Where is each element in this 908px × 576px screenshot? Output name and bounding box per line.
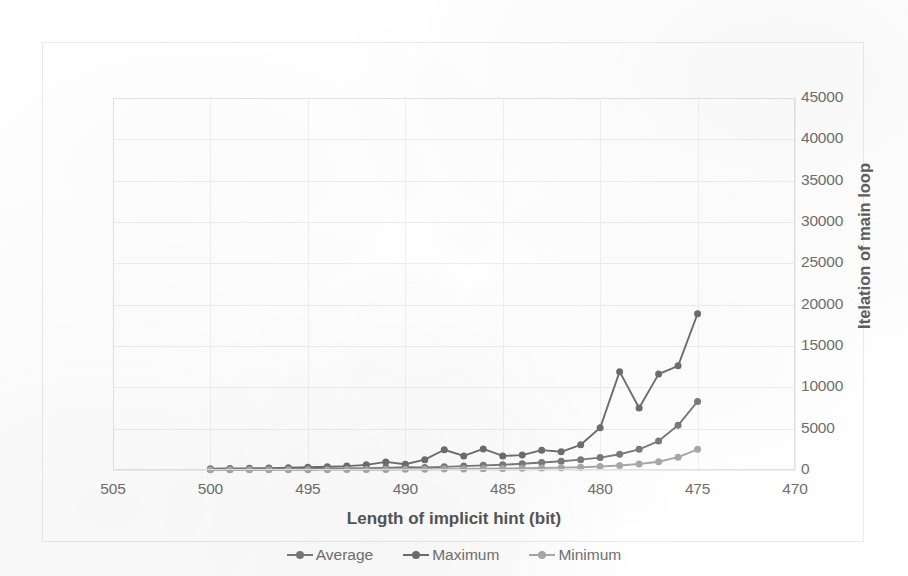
data-point-marker — [675, 362, 682, 369]
data-point-marker — [226, 466, 233, 473]
chart-frame: 0500010000150002000025000300003500040000… — [42, 42, 864, 542]
data-point-marker — [285, 466, 292, 473]
x-axis-title: Length of implicit hint (bit) — [43, 509, 865, 529]
data-point-marker — [460, 452, 467, 459]
y-axis-tick-label: 40000 — [801, 129, 871, 147]
data-point-marker — [577, 456, 584, 463]
data-point-marker — [597, 454, 604, 461]
data-point-marker — [538, 447, 545, 454]
data-point-marker — [304, 466, 311, 473]
data-point-marker — [558, 458, 565, 465]
data-point-marker — [655, 438, 662, 445]
data-point-marker — [207, 466, 214, 473]
legend-marker-icon — [403, 549, 429, 561]
x-axis-tick-label: 490 — [375, 480, 435, 498]
y-axis-tick-label: 10000 — [801, 377, 871, 395]
data-point-marker — [441, 446, 448, 453]
data-point-marker — [577, 464, 584, 471]
chart-container: 0500010000150002000025000300003500040000… — [0, 0, 908, 576]
data-point-marker — [499, 452, 506, 459]
data-point-marker — [499, 465, 506, 472]
legend-marker-icon — [287, 549, 313, 561]
data-point-marker — [636, 446, 643, 453]
data-point-marker — [577, 441, 584, 448]
data-point-marker — [480, 445, 487, 452]
data-point-marker — [246, 466, 253, 473]
x-axis-tick-label: 475 — [668, 480, 728, 498]
data-point-marker — [382, 458, 389, 465]
data-point-marker — [597, 463, 604, 470]
data-point-marker — [402, 466, 409, 473]
data-point-marker — [558, 464, 565, 471]
data-point-marker — [382, 466, 389, 473]
series-minimum — [207, 446, 701, 474]
data-point-marker — [694, 398, 701, 405]
data-point-marker — [265, 466, 272, 473]
data-point-marker — [460, 465, 467, 472]
y-axis-tick-label: 45000 — [801, 88, 871, 106]
data-point-marker — [675, 454, 682, 461]
legend-item-label: Average — [316, 546, 373, 564]
data-point-marker — [441, 466, 448, 473]
data-point-marker — [636, 461, 643, 468]
series-average — [207, 398, 701, 473]
series-line — [210, 314, 697, 469]
data-point-marker — [480, 465, 487, 472]
data-point-marker — [343, 466, 350, 473]
data-point-marker — [421, 456, 428, 463]
plot-series-svg — [113, 98, 795, 470]
data-point-marker — [558, 448, 565, 455]
x-axis-tick-label: 495 — [278, 480, 338, 498]
y-axis-tick-label: 5000 — [801, 419, 871, 437]
x-axis-tick-label: 470 — [765, 480, 825, 498]
plot-area — [113, 98, 795, 470]
x-axis-tick-label: 485 — [473, 480, 533, 498]
data-point-marker — [616, 451, 623, 458]
series-line — [210, 401, 697, 469]
data-point-marker — [636, 405, 643, 412]
data-point-marker — [421, 466, 428, 473]
legend-marker-icon — [529, 549, 555, 561]
data-point-marker — [519, 452, 526, 459]
data-point-marker — [363, 466, 370, 473]
legend-item-label: Maximum — [432, 546, 499, 564]
x-axis-tick-label: 480 — [570, 480, 630, 498]
x-axis-tick-label: 505 — [83, 480, 143, 498]
data-point-marker — [519, 465, 526, 472]
legend-item-minimum[interactable]: Minimum — [529, 546, 621, 564]
y-axis-title: Itelation of main loop — [855, 163, 874, 329]
vertical-gridline — [795, 98, 796, 470]
series-maximum — [207, 310, 701, 472]
data-point-marker — [597, 424, 604, 431]
y-axis-tick-label: 0 — [801, 460, 871, 478]
legend-item-average[interactable]: Average — [287, 546, 373, 564]
data-point-marker — [655, 458, 662, 465]
data-point-marker — [675, 422, 682, 429]
data-point-marker — [616, 462, 623, 469]
data-point-marker — [616, 368, 623, 375]
legend-item-maximum[interactable]: Maximum — [403, 546, 499, 564]
chart-legend: AverageMaximumMinimum — [43, 546, 865, 564]
data-point-marker — [538, 465, 545, 472]
y-axis-tick-label: 15000 — [801, 336, 871, 354]
data-point-marker — [324, 466, 331, 473]
legend-item-label: Minimum — [558, 546, 621, 564]
data-point-marker — [694, 446, 701, 453]
x-axis-tick-label: 500 — [180, 480, 240, 498]
data-point-marker — [694, 310, 701, 317]
data-point-marker — [655, 371, 662, 378]
